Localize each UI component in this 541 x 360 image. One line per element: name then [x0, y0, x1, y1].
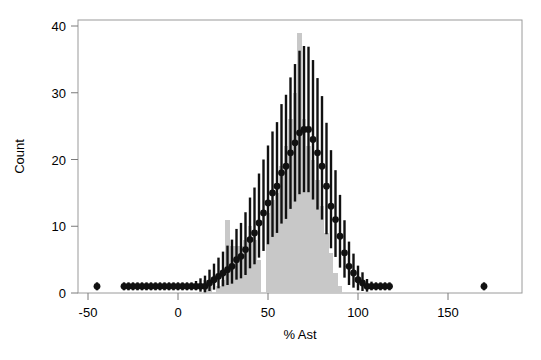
y-tick-label: 30	[52, 86, 66, 101]
x-tick-label: 150	[437, 305, 459, 320]
histogram-bar	[324, 233, 329, 293]
y-tick-label: 20	[52, 153, 66, 168]
y-axis-title: Count	[12, 139, 27, 174]
histogram-bar	[338, 286, 343, 293]
data-point	[247, 236, 254, 243]
data-point	[346, 263, 353, 270]
data-point	[328, 203, 335, 210]
x-axis-ticks: -50050100150	[79, 293, 459, 320]
y-tick-label: 40	[52, 19, 66, 34]
chart-figure: -50050100150 010203040 % Ast Count	[0, 0, 541, 360]
data-point	[323, 183, 330, 190]
data-point	[292, 139, 299, 146]
data-point	[269, 189, 276, 196]
data-point	[305, 126, 312, 133]
data-point	[287, 149, 294, 156]
x-tick-label: 50	[261, 305, 275, 320]
histogram-bar	[329, 253, 334, 293]
data-point	[94, 283, 101, 290]
y-axis-ticks: 010203040	[52, 19, 78, 301]
y-tick-label: 0	[59, 286, 66, 301]
data-point	[310, 136, 317, 143]
histogram-bar	[257, 260, 262, 293]
data-point	[274, 183, 281, 190]
x-tick-label: 0	[174, 305, 181, 320]
data-point	[238, 253, 245, 260]
data-point	[386, 283, 393, 290]
chart-canvas: -50050100150 010203040 % Ast Count	[0, 0, 541, 360]
x-tick-label: 100	[347, 305, 369, 320]
data-point	[256, 220, 263, 227]
y-tick-label: 10	[52, 219, 66, 234]
data-point	[332, 216, 339, 223]
histogram-bar	[333, 273, 338, 293]
data-point	[260, 210, 267, 217]
data-point	[337, 233, 344, 240]
data-point	[481, 283, 488, 290]
data-point	[283, 163, 290, 170]
data-point	[242, 246, 249, 253]
data-point	[319, 163, 326, 170]
data-point	[229, 263, 236, 270]
x-axis-title: % Ast	[283, 327, 317, 342]
data-point	[341, 250, 348, 257]
data-point	[278, 169, 285, 176]
data-point	[265, 199, 272, 206]
data-point	[350, 270, 357, 277]
data-point	[251, 230, 258, 237]
data-point	[314, 149, 321, 156]
x-tick-label: -50	[79, 305, 98, 320]
